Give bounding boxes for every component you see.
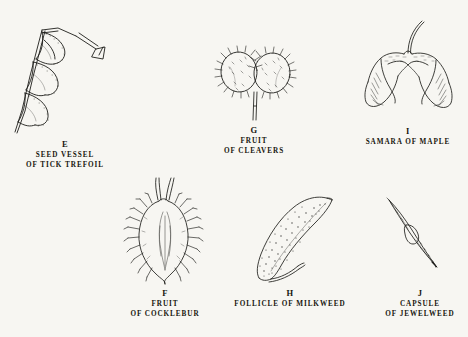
- specimen-g-cleavers: G FRUIT OF CLEAVERS: [196, 40, 312, 156]
- specimen-h-art-wrap: [226, 186, 354, 288]
- specimen-h-caption: H FOLLICLE OF MILKWEED: [226, 288, 354, 309]
- specimen-f-cocklebur: F FRUIT OF COCKLEBUR: [103, 176, 227, 319]
- specimen-i-letter: I: [348, 126, 468, 137]
- maple-samara-illustration: [348, 16, 468, 126]
- specimen-j-jewelweed: J CAPSULE OF JEWELWEED: [372, 192, 468, 319]
- cocklebur-fruit-illustration: [103, 176, 227, 288]
- specimen-j-letter: J: [372, 288, 468, 299]
- specimen-g-caption-line-1: FRUIT: [196, 136, 312, 146]
- specimen-f-caption-line-1: FRUIT: [103, 299, 227, 309]
- specimen-j-art-wrap: [372, 192, 468, 288]
- milkweed-follicle-illustration: [226, 186, 354, 288]
- specimen-e-letter: E: [0, 139, 130, 150]
- specimen-j-caption: J CAPSULE OF JEWELWEED: [372, 288, 468, 319]
- tick-trefoil-loment-illustration: [0, 14, 130, 139]
- specimen-e-caption-line-2: OF TICK TREFOIL: [0, 160, 130, 170]
- specimen-e-art-wrap: [0, 14, 130, 139]
- specimen-g-caption-line-2: OF CLEAVERS: [196, 146, 312, 156]
- specimen-g-art-wrap: [196, 40, 312, 125]
- specimen-i-maple: I SAMARA OF MAPLE: [348, 16, 468, 147]
- specimen-h-letter: H: [226, 288, 354, 299]
- specimen-i-caption-line-1: SAMARA OF MAPLE: [348, 137, 468, 147]
- specimen-e-caption: E SEED VESSEL OF TICK TREFOIL: [0, 139, 130, 170]
- specimen-g-letter: G: [196, 125, 312, 136]
- specimen-g-caption: G FRUIT OF CLEAVERS: [196, 125, 312, 156]
- jewelweed-capsule-illustration: [372, 192, 468, 288]
- botanical-plate: E SEED VESSEL OF TICK TREFOIL: [0, 0, 468, 337]
- specimen-f-caption: F FRUIT OF COCKLEBUR: [103, 288, 227, 319]
- specimen-f-letter: F: [103, 288, 227, 299]
- specimen-j-caption-line-2: OF JEWELWEED: [372, 309, 468, 319]
- specimen-h-caption-line-1: FOLLICLE OF MILKWEED: [226, 299, 354, 309]
- specimen-i-caption: I SAMARA OF MAPLE: [348, 126, 468, 147]
- specimen-f-caption-line-2: OF COCKLEBUR: [103, 309, 227, 319]
- specimen-e-tick-trefoil: E SEED VESSEL OF TICK TREFOIL: [0, 14, 130, 170]
- specimen-h-milkweed: H FOLLICLE OF MILKWEED: [226, 186, 354, 309]
- specimen-i-art-wrap: [348, 16, 468, 126]
- cleavers-fruit-illustration: [196, 40, 312, 125]
- specimen-j-caption-line-1: CAPSULE: [372, 299, 468, 309]
- specimen-f-art-wrap: [103, 176, 227, 288]
- specimen-e-caption-line-1: SEED VESSEL: [0, 150, 130, 160]
